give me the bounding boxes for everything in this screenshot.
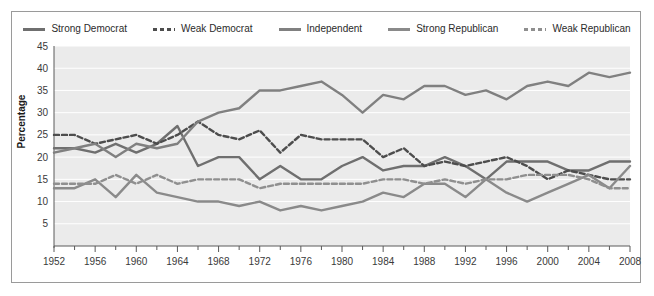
- legend-swatch-strong-democrat: [23, 28, 45, 31]
- x-tick-label: 1968: [207, 256, 230, 267]
- legend-swatch-weak-republican: [524, 28, 546, 31]
- x-tick-label: 1972: [249, 256, 272, 267]
- x-tick-label: 1956: [84, 256, 107, 267]
- x-tick-label: 1952: [43, 256, 66, 267]
- plot-background: [54, 46, 630, 246]
- legend-item-weak-democrat: Weak Democrat: [153, 24, 253, 34]
- line-chart-svg: 5101520253035404519521956196019641968197…: [12, 40, 642, 282]
- x-tick-label: 1984: [372, 256, 395, 267]
- x-tick-label: 1964: [166, 256, 189, 267]
- y-tick-label: 20: [37, 152, 49, 163]
- y-tick-label: 35: [37, 85, 49, 96]
- legend-item-weak-republican: Weak Republican: [524, 24, 630, 34]
- legend-swatch-independent: [279, 28, 301, 31]
- legend-label-strong-democrat: Strong Democrat: [51, 24, 127, 34]
- x-tick-label: 1976: [290, 256, 313, 267]
- y-tick-label: 30: [37, 107, 49, 118]
- legend-label-weak-democrat: Weak Democrat: [181, 24, 253, 34]
- chart-figure: Strong Democrat Weak Democrat Independen…: [11, 11, 641, 283]
- x-tick-label: 1988: [413, 256, 436, 267]
- y-tick-label: 5: [42, 218, 48, 229]
- legend-swatch-weak-democrat: [153, 28, 175, 31]
- y-tick-label: 25: [37, 129, 49, 140]
- y-tick-label: 15: [37, 174, 49, 185]
- x-tick-label: 1980: [331, 256, 354, 267]
- legend-label-strong-republican: Strong Republican: [416, 24, 498, 34]
- y-tick-label: 40: [37, 63, 49, 74]
- y-tick-label: 45: [37, 41, 49, 52]
- x-tick-label: 2000: [537, 256, 560, 267]
- x-tick-label: 1960: [125, 256, 148, 267]
- x-tick-label: 1996: [495, 256, 518, 267]
- legend-item-strong-republican: Strong Republican: [388, 24, 498, 34]
- x-tick-label: 1992: [454, 256, 477, 267]
- chart-legend: Strong Democrat Weak Democrat Independen…: [12, 18, 642, 40]
- y-tick-label: 10: [37, 196, 49, 207]
- x-tick-label: 2004: [578, 256, 601, 267]
- x-tick-label: 2008: [619, 256, 642, 267]
- legend-label-weak-republican: Weak Republican: [552, 24, 630, 34]
- legend-item-strong-democrat: Strong Democrat: [23, 24, 127, 34]
- legend-item-independent: Independent: [279, 24, 363, 34]
- legend-label-independent: Independent: [307, 24, 363, 34]
- plot-area: Percentage 51015202530354045195219561960…: [12, 40, 642, 282]
- legend-swatch-strong-republican: [388, 28, 410, 31]
